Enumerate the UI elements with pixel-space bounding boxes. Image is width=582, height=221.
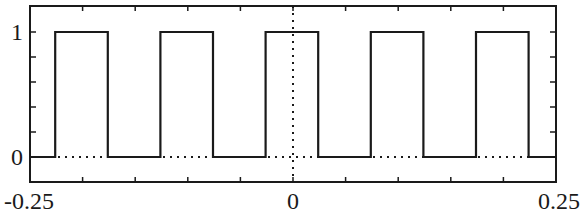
x-tick-label: -0.25	[4, 188, 54, 214]
pulse-train-chart: -0.2500.2501	[0, 0, 582, 221]
y-tick-label: 0	[11, 144, 23, 170]
pulse-series-line	[30, 32, 556, 157]
x-tick-label: 0	[287, 188, 299, 214]
series-layer	[30, 32, 556, 157]
y-tick-label: 1	[11, 19, 23, 45]
x-tick-label: 0.25	[538, 188, 580, 214]
